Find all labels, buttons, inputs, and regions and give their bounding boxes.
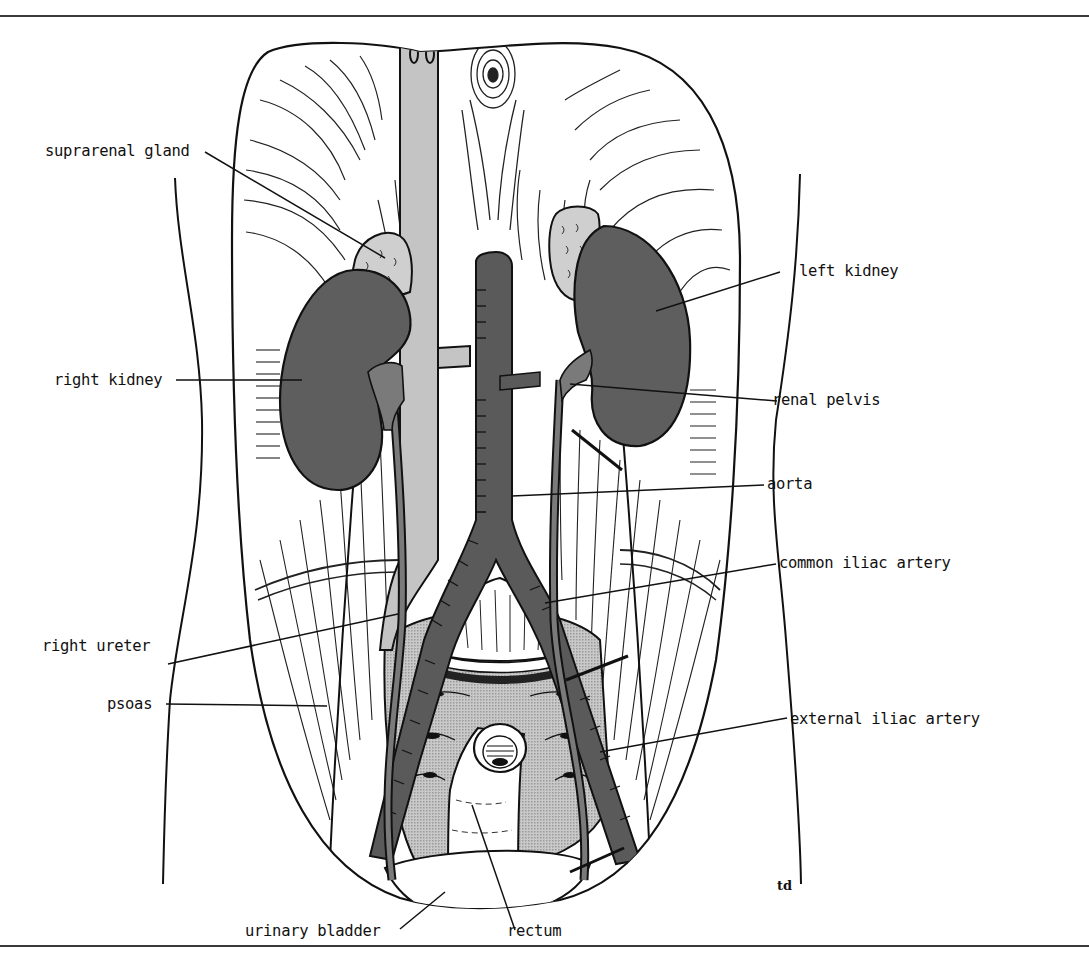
label-right-kidney: right kidney [54, 371, 162, 389]
label-left-kidney: left kidney [799, 262, 898, 280]
label-rectum: rectum [507, 922, 561, 940]
label-urinary-bladder: urinary bladder [245, 922, 380, 940]
label-psoas: psoas [107, 695, 152, 713]
label-external-iliac-artery: external iliac artery [790, 710, 980, 728]
label-renal-pelvis: renal pelvis [772, 391, 880, 409]
label-right-ureter: right ureter [42, 637, 150, 655]
label-suprarenal-gland: suprarenal gland [45, 142, 190, 160]
artist-signature: td [777, 878, 792, 893]
label-common-iliac-artery: common iliac artery [779, 554, 951, 572]
urinary-bladder [385, 851, 590, 920]
label-aorta: aorta [767, 475, 812, 493]
